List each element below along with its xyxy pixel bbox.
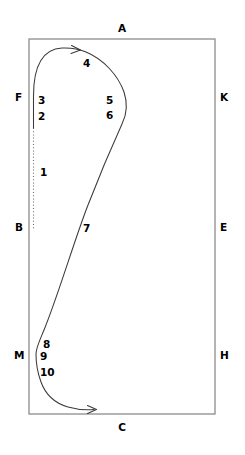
corner-label-e: E xyxy=(220,221,227,233)
number-label-2: 2 xyxy=(38,110,45,122)
corner-label-k: K xyxy=(220,91,229,103)
diagram-canvas: A F K B E M H C 1 2 3 4 5 6 7 8 9 10 xyxy=(0,0,245,455)
number-label-4: 4 xyxy=(83,57,90,69)
number-label-5: 5 xyxy=(106,94,113,106)
number-labels-group: 1 2 3 4 5 6 7 8 9 10 xyxy=(38,57,113,378)
number-label-10: 10 xyxy=(40,366,55,378)
arrowhead-top-icon xyxy=(71,46,81,54)
rectangle-frame xyxy=(29,39,215,414)
corner-label-m: M xyxy=(14,349,24,361)
number-label-3: 3 xyxy=(38,94,45,106)
number-label-8: 8 xyxy=(43,338,50,350)
corner-label-c: C xyxy=(118,421,126,433)
corner-label-h: H xyxy=(220,349,229,361)
line-diagram-svg: A F K B E M H C 1 2 3 4 5 6 7 8 9 10 xyxy=(0,0,245,455)
corner-label-f: F xyxy=(15,91,22,103)
number-label-7: 7 xyxy=(83,222,90,234)
corner-label-b: B xyxy=(15,221,23,233)
number-label-1: 1 xyxy=(40,166,47,178)
number-label-6: 6 xyxy=(106,109,113,121)
corner-label-a: A xyxy=(118,22,127,34)
number-label-9: 9 xyxy=(40,350,47,362)
